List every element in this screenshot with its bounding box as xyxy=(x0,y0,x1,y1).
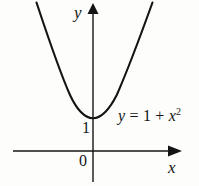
equation-relation: = xyxy=(130,107,139,124)
curve-equation-label: y = 1 + x2 xyxy=(118,108,181,124)
equation-exponent: 2 xyxy=(176,106,181,117)
equation-constant: 1 xyxy=(143,107,151,124)
parabola-figure: y x 1 0 y = 1 + x2 xyxy=(0,0,199,186)
equation-variable: x xyxy=(169,107,176,124)
equation-lhs-variable: y xyxy=(118,107,125,124)
parabola-curve xyxy=(37,3,153,119)
y-axis-label: y xyxy=(74,4,82,21)
y-intercept-tick-label: 1 xyxy=(82,120,90,136)
equation-operator: + xyxy=(155,107,164,124)
x-axis-label: x xyxy=(168,159,176,176)
x-axis-arrowhead xyxy=(168,146,182,157)
origin-label: 0 xyxy=(79,153,87,169)
y-axis-arrowhead xyxy=(88,3,99,14)
